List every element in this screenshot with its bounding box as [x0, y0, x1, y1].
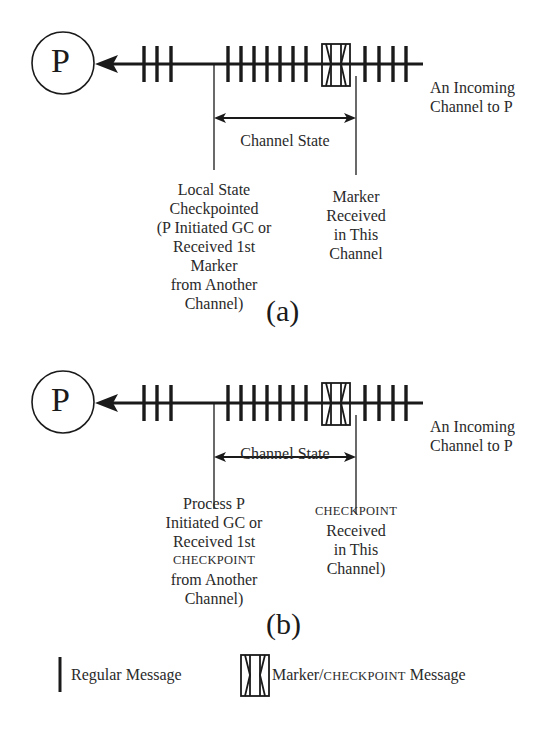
diagram-a: [32, 32, 423, 175]
process-label-b: P: [51, 384, 70, 416]
diagram-b: [32, 371, 423, 514]
channel-state-label-a: Channel State: [214, 131, 356, 150]
channel-state-label-b: Channel State: [214, 444, 356, 463]
process-initiated-annotation-b: Process P Initiated GC or Received 1st C…: [144, 494, 284, 608]
caption-a: (a): [266, 295, 299, 327]
incoming-channel-label-a: An Incoming Channel to P: [430, 78, 515, 116]
process-label-a: P: [51, 45, 70, 77]
checkpoint-received-annotation-b: CHECKPOINT Received in This Channel): [311, 502, 401, 578]
channel-state-arrow: [214, 113, 356, 123]
marker-checkpoint-legend-icon: [241, 655, 269, 696]
caption-b: (b): [266, 608, 301, 640]
marker-received-annotation-a: Marker Received in This Channel: [316, 187, 396, 263]
marker-message-icon: [322, 44, 350, 86]
legend-marker-label: Marker/CHECKPOINT Message: [272, 665, 466, 686]
legend-regular-label: Regular Message: [71, 665, 182, 684]
checkpoint-message-icon: [322, 383, 350, 425]
local-state-annotation-a: Local State Checkpointed (P Initiated GC…: [144, 180, 284, 313]
incoming-channel-label-b: An Incoming Channel to P: [430, 417, 515, 455]
